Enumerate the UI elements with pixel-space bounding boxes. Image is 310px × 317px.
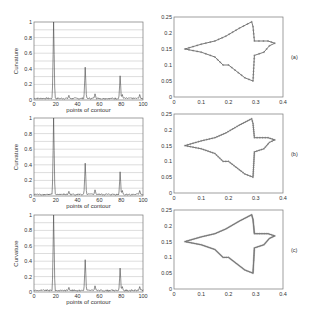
contour-marker [190,242,192,244]
contour-marker [260,233,262,235]
y-tick-label: 0.2 [24,81,32,87]
contour-marker [205,235,207,237]
contour-line [185,22,275,81]
x-tick-label: 0.2 [225,291,233,297]
contour-marker [252,168,254,170]
contour-marker [270,41,272,43]
y-tick-label: 0.25 [161,14,172,20]
contour-marker [253,153,255,155]
contour-marker [253,64,255,66]
contour-plot-a [174,17,283,97]
y-tick-label: 0.25 [161,207,172,213]
y-axis-label: Curvature [13,240,19,267]
contour-marker [253,54,255,56]
curvature-plot-b [34,118,143,196]
x-tick-label: 0 [172,195,175,201]
contour-marker [253,165,255,167]
contour-marker [261,149,263,151]
contour-marker [225,160,227,162]
contour-marker [192,50,194,52]
contour-marker [253,161,255,163]
y-tick-label: 0.2 [164,223,172,229]
y-tick-label: 0.05 [161,78,172,84]
x-tick-label: 0.2 [225,195,233,201]
contour-marker [211,137,213,139]
contour-marker [207,234,209,236]
contour-marker [267,233,269,235]
contour-marker [270,234,272,236]
contour-marker [256,150,258,152]
y-tick-label: 0.6 [24,243,32,249]
contour-marker [226,256,228,258]
contour-marker [208,138,210,140]
contour-marker [253,61,255,63]
contour-marker [198,147,200,149]
contour-marker [252,77,254,79]
x-tick-label: 80 [118,197,124,203]
contour-marker [252,122,254,124]
contour-marker [267,40,269,42]
contour-marker [252,74,254,76]
curvature-series [34,118,143,195]
x-tick-label: 0.1 [197,99,205,105]
contour-marker [253,40,255,42]
y-tick-label: 1 [29,212,32,218]
contour-marker [252,26,254,28]
contour-marker [200,43,202,45]
y-tick-label: 0.2 [24,177,32,183]
contour-marker [252,170,254,172]
contour-marker [251,216,253,218]
x-tick-label: 0.1 [197,291,205,297]
contour-marker [253,58,255,60]
y-tick-label: 0.15 [161,143,172,149]
y-tick-label: 0.05 [161,174,172,180]
contour-marker [189,143,191,145]
x-tick-label: 0.2 [225,99,233,105]
x-tick-label: 20 [53,293,59,299]
y-tick-label: 0.8 [24,35,32,41]
contour-marker [252,29,254,31]
y-tick-label: 0.2 [24,274,32,280]
contour-marker [259,137,261,139]
y-tick-label: 0 [169,94,172,100]
curvature-plot-a [34,22,143,100]
contour-marker [269,233,271,235]
y-tick-label: 0.25 [161,111,172,117]
contour-marker [198,141,200,143]
contour-marker [253,233,255,235]
x-tick-label: 0 [32,101,35,107]
y-axis-label: Curvature [13,143,19,170]
contour-marker [209,54,211,56]
contour-marker [255,233,257,235]
x-tick-label: 20 [53,101,59,107]
contour-marker [253,166,255,168]
contour-marker [212,152,214,154]
contour-marker [253,151,255,153]
y-tick-label: 0 [169,286,172,292]
contour-marker [188,49,190,51]
contour-marker [251,120,253,122]
contour-marker [253,67,255,69]
curvature-plot-c [34,215,143,292]
contour-marker [256,137,258,139]
contour-marker [189,242,191,244]
x-axis-label: points of contour [66,107,110,113]
contour-marker [205,53,207,55]
x-tick-label: 100 [138,197,147,203]
y-tick-label: 0.8 [24,131,32,137]
contour-marker [264,137,266,139]
axes-box [174,17,283,97]
contour-marker [264,233,266,235]
contour-marker [192,46,194,48]
y-tick-label: 0.8 [24,227,32,233]
x-tick-label: 0.3 [252,195,260,201]
x-tick-label: 0 [32,293,35,299]
contour-marker [192,146,194,148]
contour-marker [252,174,254,176]
x-tick-label: 0.4 [279,99,287,105]
contour-marker [253,131,255,133]
contour-marker [253,163,255,165]
contour-marker [253,137,255,139]
panel-label-a: (a) [291,54,298,60]
contour-marker [258,233,260,235]
